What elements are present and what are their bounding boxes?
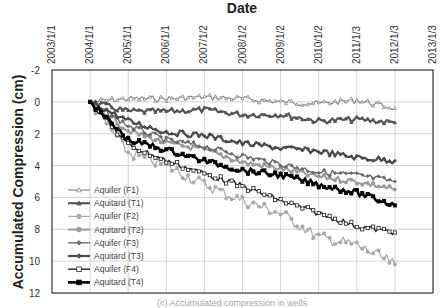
legend-item: Aquitard (T4) <box>68 277 144 287</box>
legend-label: Aquifer (F3) <box>94 238 139 248</box>
y-tick-label: -2 <box>31 65 40 76</box>
legend-item: Aquitard (T2) <box>68 225 144 235</box>
x-tick-label: 2006/1/1 <box>160 25 171 64</box>
legend-label: Aquifer (F2) <box>94 211 139 221</box>
legend-item: Aquifer (F3) <box>68 238 139 248</box>
y-tick-label: 4 <box>34 161 40 172</box>
legend-label: Aquitard (T2) <box>94 225 144 235</box>
legend-item: Aquifer (F4) <box>68 264 139 274</box>
x-tick-label: 2008/1/2 <box>237 25 248 64</box>
legend-item: Aquitard (T3) <box>68 251 144 261</box>
x-tick-label: 2003/1/1 <box>46 25 57 64</box>
legend-item: Aquifer (F2) <box>68 211 139 221</box>
y-tick-label: 12 <box>29 288 41 299</box>
y-tick-label: 0 <box>34 97 40 108</box>
x-tick-label: 2004/1/1 <box>84 25 95 64</box>
figure-caption: (c) Accumulated compression in wells <box>157 298 308 308</box>
y-axis-title: Accumulated Compression (cm) <box>10 75 26 290</box>
legend-label: Aquifer (F4) <box>94 264 139 274</box>
y-tick-label: 10 <box>29 256 41 267</box>
x-tick-label: 2011/1/3 <box>351 25 362 64</box>
legend-item: Aquifer (F1) <box>68 185 139 195</box>
legend-label: Aquitard (T1) <box>94 198 144 208</box>
legend: Aquifer (F1)Aquitard (T1)Aquifer (F2)Aqu… <box>68 185 144 287</box>
chart-title: Date <box>227 0 258 16</box>
x-tick-label: 2012/1/3 <box>389 25 400 64</box>
x-axis-ticks: 2003/1/12004/1/12005/1/12006/1/12007/1/2… <box>46 25 438 64</box>
y-tick-label: 8 <box>34 224 40 235</box>
legend-label: Aquifer (F1) <box>94 185 139 195</box>
y-axis-ticks: -2024681012 <box>29 65 41 299</box>
x-tick-label: 2007/1/2 <box>198 25 209 64</box>
x-tick-label: 2010/1/2 <box>313 25 324 64</box>
legend-label: Aquitard (T4) <box>94 277 144 287</box>
legend-label: Aquitard (T3) <box>94 251 144 261</box>
x-tick-label: 2013/1/3 <box>427 25 438 64</box>
y-tick-label: 2 <box>34 129 40 140</box>
compression-chart: Date Accumulated Compression (cm) 2003/1… <box>0 0 445 308</box>
legend-item: Aquitard (T1) <box>68 198 144 208</box>
y-tick-label: 6 <box>34 192 40 203</box>
x-tick-label: 2009/1/2 <box>275 25 286 64</box>
x-tick-label: 2005/1/1 <box>122 25 133 64</box>
